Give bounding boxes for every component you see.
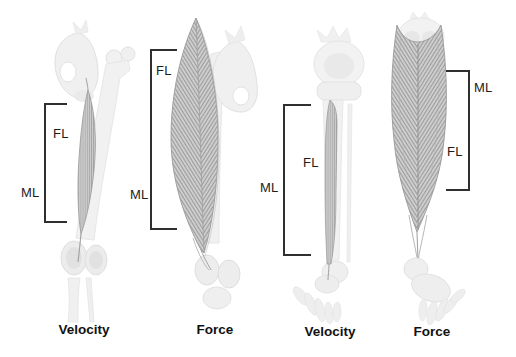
lower-leg-velocity-length-bracket xyxy=(283,104,311,256)
lower-leg-force-fl-label: FL xyxy=(447,145,463,158)
lower-leg-force-ml-label: ML xyxy=(474,81,492,94)
thigh-force-fl-label: FL xyxy=(156,64,172,77)
figure-canvas: FL ML FL ML FL ML FL ML Velocity Force V… xyxy=(0,0,516,357)
lower-leg-force-caption: Force xyxy=(390,325,474,339)
lower-leg-force-illustration xyxy=(385,10,490,325)
thigh-velocity-length-bracket xyxy=(44,103,67,223)
thigh-force-ml-label: ML xyxy=(130,188,148,201)
thigh-velocity-ml-label: ML xyxy=(21,186,39,199)
thigh-force-caption: Force xyxy=(173,323,257,337)
lower-leg-velocity-ml-label: ML xyxy=(260,181,278,194)
thigh-velocity-caption: Velocity xyxy=(42,323,126,337)
lower-leg-velocity-fl-label: FL xyxy=(303,156,319,169)
lower-leg-velocity-caption: Velocity xyxy=(288,325,372,339)
thigh-velocity-fl-label: FL xyxy=(53,127,69,140)
lower-leg-force-length-bracket xyxy=(446,70,470,191)
